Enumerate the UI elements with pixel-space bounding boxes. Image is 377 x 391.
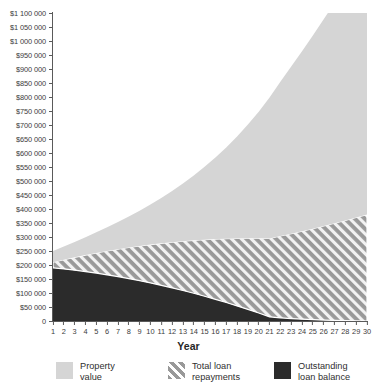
total-loan-repayments-swatch — [168, 362, 185, 379]
x-axis-tick-mark — [193, 321, 194, 325]
y-axis-tick-label: $850 000 — [16, 79, 49, 88]
y-axis-tick: $650 000 — [16, 134, 53, 144]
stacked-area-chart: $1 100 000$1 050 000$1 000 000$950 000$9… — [0, 0, 377, 391]
x-axis-tick-label: 25 — [309, 327, 317, 336]
legend-item[interactable]: Property value — [56, 361, 115, 384]
y-axis-tick-label: $900 000 — [16, 65, 49, 74]
x-axis-tick: 18 — [233, 321, 241, 336]
x-axis-title: Year — [0, 340, 377, 352]
property-value-swatch — [56, 362, 73, 379]
x-axis-tick-label: 21 — [265, 327, 273, 336]
y-axis-tick-mark — [49, 279, 53, 280]
y-axis-tick: $750 000 — [16, 106, 53, 116]
outstanding-loan-balance-swatch — [274, 362, 291, 379]
x-axis-tick-mark — [96, 321, 97, 325]
y-axis-tick: $950 000 — [16, 50, 53, 60]
x-axis-tick: 2 — [62, 321, 66, 336]
y-axis-tick-mark — [49, 223, 53, 224]
x-axis-tick-mark — [291, 321, 292, 325]
y-axis-tick-mark — [49, 69, 53, 70]
x-axis-tick: 9 — [138, 321, 142, 336]
y-axis-tick: $50 000 — [20, 302, 53, 312]
y-axis-tick: $800 000 — [16, 92, 53, 102]
legend-label: Property value — [80, 361, 115, 384]
y-axis-tick-mark — [49, 41, 53, 42]
x-axis-tick: 29 — [352, 321, 360, 336]
y-axis-tick: $450 000 — [16, 190, 53, 200]
y-axis-tick-mark — [49, 111, 53, 112]
x-axis-tick: 17 — [222, 321, 230, 336]
y-axis-tick-mark — [49, 55, 53, 56]
x-axis-tick: 7 — [116, 321, 120, 336]
x-axis-tick: 19 — [244, 321, 252, 336]
y-axis-tick-label: $700 000 — [16, 121, 49, 130]
x-axis-tick: 28 — [341, 321, 349, 336]
x-axis-tick-mark — [204, 321, 205, 325]
x-axis-tick-mark — [356, 321, 357, 325]
y-axis-tick: $850 000 — [16, 78, 53, 88]
x-axis-tick-label: 17 — [222, 327, 230, 336]
y-axis-tick: $300 000 — [16, 232, 53, 242]
x-axis-tick: 14 — [190, 321, 198, 336]
y-axis-tick: $550 000 — [16, 162, 53, 172]
y-axis-tick-label: $150 000 — [16, 275, 49, 284]
x-axis-tick-label: 4 — [83, 327, 87, 336]
chart-legend: Property valueTotal loan repaymentsOutst… — [0, 361, 377, 391]
x-axis-tick-mark — [85, 321, 86, 325]
legend-item[interactable]: Outstanding loan balance — [274, 361, 350, 384]
y-axis-tick-mark — [49, 209, 53, 210]
x-axis-tick-mark — [237, 321, 238, 325]
x-axis-tick: 30 — [363, 321, 371, 336]
x-axis-tick: 25 — [309, 321, 317, 336]
x-axis-tick-mark — [280, 321, 281, 325]
x-axis-tick-label: 18 — [233, 327, 241, 336]
legend-item[interactable]: Total loan repayments — [168, 361, 240, 384]
x-axis-tick: 3 — [73, 321, 77, 336]
x-axis-tick: 20 — [255, 321, 263, 336]
y-axis-tick-label: $1 050 000 — [10, 23, 49, 32]
y-axis-tick-mark — [49, 265, 53, 266]
x-axis-tick-mark — [161, 321, 162, 325]
x-axis-tick-mark — [128, 321, 129, 325]
y-axis-tick-mark — [49, 195, 53, 196]
x-axis-tick-label: 30 — [363, 327, 371, 336]
y-axis-tick-label: $400 000 — [16, 205, 49, 214]
x-axis-tick-mark — [312, 321, 313, 325]
y-axis-tick-mark — [49, 125, 53, 126]
x-axis-tick-label: 11 — [157, 327, 165, 336]
x-axis-tick-label: 16 — [211, 327, 219, 336]
x-axis-tick-label: 20 — [255, 327, 263, 336]
y-axis-tick-mark — [49, 139, 53, 140]
y-axis-tick-label: $1 000 000 — [10, 37, 49, 46]
x-axis-tick: 26 — [320, 321, 328, 336]
x-axis-tick-mark — [215, 321, 216, 325]
x-axis-tick: 15 — [200, 321, 208, 336]
x-axis-tick-label: 10 — [146, 327, 154, 336]
y-axis-tick-label: $1 100 000 — [10, 9, 49, 18]
x-axis-tick-label: 7 — [116, 327, 120, 336]
y-axis-tick: $150 000 — [16, 274, 53, 284]
y-axis-tick: $900 000 — [16, 64, 53, 74]
x-axis-tick: 6 — [105, 321, 109, 336]
x-axis-tick-label: 13 — [179, 327, 187, 336]
x-axis-tick-label: 3 — [73, 327, 77, 336]
y-axis-tick-mark — [49, 153, 53, 154]
y-axis-tick-label: $650 000 — [16, 135, 49, 144]
x-axis-tick-mark — [247, 321, 248, 325]
x-axis-tick-mark — [172, 321, 173, 325]
x-axis-tick: 13 — [179, 321, 187, 336]
y-axis-tick-label: $800 000 — [16, 93, 49, 102]
x-axis-tick-label: 2 — [62, 327, 66, 336]
y-axis-tick-label: $550 000 — [16, 163, 49, 172]
x-axis-tick: 5 — [94, 321, 98, 336]
y-axis-tick-mark — [49, 307, 53, 308]
x-axis-tick-mark — [258, 321, 259, 325]
legend-label: Outstanding loan balance — [298, 361, 350, 384]
x-axis-tick: 23 — [287, 321, 295, 336]
x-axis-tick-mark — [334, 321, 335, 325]
y-axis-tick-label: $50 000 — [20, 303, 49, 312]
x-axis-tick: 11 — [157, 321, 165, 336]
x-axis-tick-mark — [53, 321, 54, 325]
x-axis-tick: 4 — [83, 321, 87, 336]
x-axis-tick-label: 23 — [287, 327, 295, 336]
